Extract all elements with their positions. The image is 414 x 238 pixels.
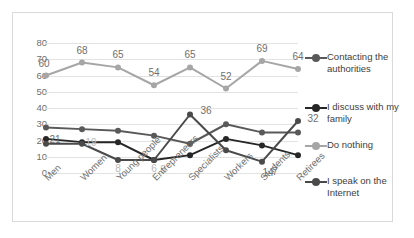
data-point bbox=[115, 64, 121, 70]
data-point bbox=[223, 86, 229, 92]
data-point bbox=[187, 112, 193, 118]
data-point bbox=[151, 82, 157, 88]
data-label: 64 bbox=[292, 52, 303, 62]
data-label: 36 bbox=[200, 106, 211, 116]
legend-item-contacting-the-authorities[interactable]: Contacting the authorities bbox=[305, 51, 388, 74]
data-point bbox=[187, 64, 193, 70]
chart-frame: 80706050403020100 2119860686554655269648… bbox=[12, 12, 393, 222]
data-point bbox=[259, 159, 265, 165]
data-label: 60 bbox=[38, 59, 49, 69]
legend-marker-icon bbox=[305, 176, 327, 187]
data-label: 52 bbox=[220, 72, 231, 82]
data-label: 21 bbox=[49, 135, 60, 145]
data-point bbox=[79, 126, 85, 132]
data-point bbox=[43, 141, 49, 147]
data-point bbox=[259, 58, 265, 64]
data-label: 65 bbox=[184, 50, 195, 60]
data-point bbox=[295, 118, 301, 124]
data-label: 19 bbox=[85, 138, 96, 148]
legend-item-i-discuss-with-my-family[interactable]: I discuss with my family bbox=[305, 101, 399, 124]
legend-label: Do nothing bbox=[327, 139, 373, 151]
data-point bbox=[259, 129, 265, 135]
legend-marker-icon bbox=[305, 102, 327, 113]
legend-item-do-nothing[interactable]: Do nothing bbox=[305, 139, 373, 151]
data-point bbox=[43, 125, 49, 131]
series-line-do-nothing bbox=[46, 61, 298, 89]
data-point bbox=[187, 152, 193, 158]
data-point bbox=[223, 121, 229, 127]
data-point bbox=[295, 152, 301, 158]
legend-label: I speak on the Internet bbox=[327, 175, 387, 198]
data-label: 54 bbox=[148, 68, 159, 78]
data-point bbox=[43, 73, 49, 79]
data-point bbox=[295, 66, 301, 72]
data-point bbox=[79, 60, 85, 66]
data-point bbox=[79, 141, 85, 147]
legend-label: Contacting the authorities bbox=[327, 51, 388, 74]
x-axis: MenWomenYoung peopleEntrepreneursSpecial… bbox=[46, 175, 298, 235]
data-point bbox=[223, 136, 229, 142]
data-label: 65 bbox=[112, 50, 123, 60]
data-point bbox=[115, 139, 121, 145]
data-point bbox=[259, 142, 265, 148]
legend-item-i-speak-on-the-internet[interactable]: I speak on the Internet bbox=[305, 175, 387, 198]
legend-marker-icon bbox=[305, 52, 327, 63]
data-label: 69 bbox=[256, 44, 267, 54]
data-point bbox=[295, 129, 301, 135]
legend-marker-icon bbox=[305, 140, 327, 151]
data-point bbox=[115, 128, 121, 134]
data-label: 68 bbox=[76, 46, 87, 56]
legend-label: I discuss with my family bbox=[327, 101, 399, 124]
